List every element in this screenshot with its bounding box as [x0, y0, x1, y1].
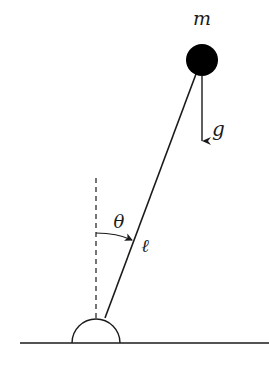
pendulum-rod: [105, 74, 196, 318]
pendulum-diagram: m g θ ℓ: [0, 0, 269, 369]
angle-label: θ: [114, 211, 125, 232]
pendulum-bob: [186, 44, 218, 76]
angle-arc: [96, 233, 132, 240]
gravity-label: g: [212, 117, 225, 141]
pivot-base: [72, 319, 120, 343]
length-label: ℓ: [141, 235, 149, 256]
mass-label: m: [193, 7, 211, 29]
